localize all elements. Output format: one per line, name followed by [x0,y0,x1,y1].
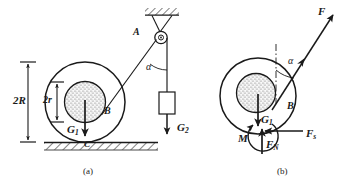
wheel-hub-b [237,74,276,113]
label-weight-g2: G2 [177,122,189,134]
hatched-ceiling [145,8,179,15]
label-angle-alpha-a: α [146,62,151,72]
hanging-block [159,92,175,114]
physics-figure: A α B C 2R 2r G1 G2 (a) F α B G1 FN Fs M… [0,0,351,190]
dimension-2r [50,82,64,122]
label-force-f: F [318,6,325,17]
label-moment-m: M [238,133,248,144]
angle-arc-a [150,64,167,70]
label-normal-force: FN [266,139,279,151]
hatched-ground [44,142,158,150]
cord-segment [102,40,157,116]
label-point-a: A [133,27,140,37]
pulley-wheel [155,31,167,43]
label-weight-g1-a: G1 [67,124,79,136]
label-weight-g1-b: G1 [261,114,273,126]
label-dimension-2r: 2r [43,95,52,105]
pulley-bracket [152,16,172,33]
label-point-c: C [84,140,90,149]
label-angle-alpha-b: α [288,56,293,66]
label-friction-force: Fs [306,128,316,140]
caption-panel-b: (b) [277,166,288,176]
label-dimension-2R: 2R [13,95,26,106]
caption-panel-a: (a) [83,166,93,176]
label-point-b-b: B [287,101,294,111]
figure-canvas [0,0,351,190]
label-point-b-a: B [104,106,111,116]
